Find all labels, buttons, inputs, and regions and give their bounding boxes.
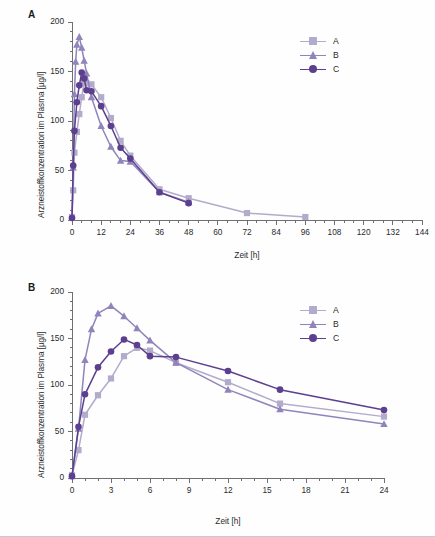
data-point bbox=[74, 99, 81, 106]
data-point bbox=[121, 336, 128, 343]
series-line bbox=[72, 339, 384, 476]
data-point bbox=[72, 58, 79, 65]
data-point bbox=[82, 391, 89, 398]
legend-label: B bbox=[333, 50, 339, 60]
data-point bbox=[117, 144, 124, 151]
legend-item-b[interactable]: B bbox=[300, 48, 339, 62]
data-point bbox=[381, 414, 387, 420]
legend-item-b[interactable]: B bbox=[300, 317, 339, 331]
series-b bbox=[68, 33, 192, 221]
data-point bbox=[185, 200, 192, 207]
legend-marker-circle bbox=[309, 334, 317, 342]
data-point bbox=[277, 386, 284, 393]
series-c bbox=[69, 336, 388, 479]
data-point bbox=[88, 88, 95, 95]
data-point bbox=[147, 347, 153, 353]
legend-item-c[interactable]: C bbox=[300, 331, 339, 345]
legend-marker-triangle bbox=[309, 320, 317, 328]
data-point bbox=[94, 309, 101, 316]
data-point bbox=[108, 123, 115, 130]
series-a bbox=[69, 345, 387, 479]
data-point bbox=[173, 354, 180, 361]
legend-marker-square bbox=[309, 306, 317, 314]
data-point bbox=[73, 41, 80, 48]
plot-area-b: 05010015020003691215182124 bbox=[0, 268, 435, 537]
series-layer-a bbox=[0, 0, 435, 269]
series-line bbox=[72, 348, 384, 475]
data-point bbox=[302, 214, 308, 220]
data-point bbox=[98, 103, 105, 110]
legend-label: C bbox=[333, 64, 339, 74]
legend-label: A bbox=[333, 305, 339, 315]
legend-swatch bbox=[300, 49, 326, 61]
series-line bbox=[72, 72, 189, 218]
data-point bbox=[381, 407, 388, 414]
legend-label: C bbox=[333, 333, 339, 343]
figure-frame: A Arzneistoffkonzentration im Plasma [µg… bbox=[0, 0, 435, 537]
data-point bbox=[70, 162, 77, 169]
data-point bbox=[107, 143, 114, 150]
data-point bbox=[97, 122, 104, 129]
data-point bbox=[75, 424, 82, 431]
data-point bbox=[79, 94, 85, 100]
legend-b: ABC bbox=[300, 303, 339, 345]
legend-swatch bbox=[300, 63, 326, 75]
series-line bbox=[72, 37, 189, 218]
data-point bbox=[69, 473, 76, 480]
legend-marker-triangle bbox=[309, 51, 317, 59]
data-point bbox=[224, 386, 231, 393]
data-point bbox=[76, 82, 83, 89]
data-point bbox=[225, 379, 231, 385]
data-point bbox=[121, 353, 127, 359]
legend-item-a[interactable]: A bbox=[300, 303, 339, 317]
legend-marker-square bbox=[309, 37, 317, 45]
data-point bbox=[134, 342, 141, 349]
data-point bbox=[76, 33, 83, 40]
data-point bbox=[244, 210, 250, 216]
legend-label: A bbox=[333, 36, 339, 46]
chart-panel-b: B Arzneistoffkonzentration im Plasma [µg… bbox=[0, 268, 435, 537]
legend-a: ABC bbox=[300, 34, 339, 76]
data-point bbox=[147, 353, 154, 360]
series-c bbox=[69, 69, 192, 221]
data-point bbox=[71, 128, 78, 135]
chart-panel-a: A Arzneistoffkonzentration im Plasma [µg… bbox=[0, 0, 435, 268]
legend-swatch bbox=[300, 35, 326, 47]
series-layer-b bbox=[0, 268, 435, 537]
data-point bbox=[80, 57, 87, 64]
legend-swatch bbox=[300, 318, 326, 330]
data-point bbox=[225, 368, 232, 375]
legend-label: B bbox=[333, 319, 339, 329]
legend-swatch bbox=[300, 332, 326, 344]
data-point bbox=[82, 412, 88, 418]
data-point bbox=[127, 155, 134, 162]
series-b bbox=[68, 302, 387, 479]
data-point bbox=[81, 356, 88, 363]
legend-swatch bbox=[300, 304, 326, 316]
legend-item-a[interactable]: A bbox=[300, 34, 339, 48]
data-point bbox=[76, 111, 82, 117]
data-point bbox=[108, 375, 114, 381]
data-point bbox=[95, 392, 101, 398]
data-point bbox=[107, 302, 114, 309]
data-point bbox=[69, 215, 76, 222]
legend-item-c[interactable]: C bbox=[300, 62, 339, 76]
data-point bbox=[98, 94, 104, 100]
data-point bbox=[95, 364, 102, 371]
data-point bbox=[108, 348, 115, 355]
legend-marker-circle bbox=[309, 65, 317, 73]
data-point bbox=[78, 69, 85, 76]
plot-area-a: 0501001502000122436486072849610812013214… bbox=[0, 0, 435, 269]
data-point bbox=[156, 189, 163, 196]
data-point bbox=[88, 325, 95, 332]
data-point bbox=[81, 75, 88, 82]
